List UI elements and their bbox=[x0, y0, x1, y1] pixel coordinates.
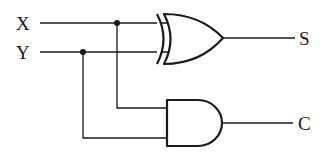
and-gate bbox=[167, 100, 222, 146]
wire-x bbox=[40, 20, 172, 108]
input-label-x: X bbox=[16, 13, 30, 34]
output-label-c: C bbox=[298, 113, 311, 134]
input-label-y: Y bbox=[16, 42, 30, 63]
junction-dot-y bbox=[80, 49, 86, 55]
junction-dot-x bbox=[114, 20, 120, 26]
output-label-s: S bbox=[299, 28, 310, 49]
half-adder-diagram: X Y S C bbox=[0, 0, 328, 157]
wire-y bbox=[40, 49, 172, 138]
xor-gate bbox=[157, 14, 223, 64]
